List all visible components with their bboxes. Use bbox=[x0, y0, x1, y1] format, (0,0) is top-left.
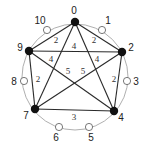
edge-weight-label: 2 bbox=[112, 74, 117, 84]
node-label-7: 7 bbox=[23, 110, 29, 121]
graph-canvas: 2244455223 012345678910 bbox=[0, 0, 149, 149]
edge-weight-label: 5 bbox=[81, 66, 86, 76]
open-node-3 bbox=[123, 77, 130, 84]
filled-node-4 bbox=[110, 107, 118, 115]
node-label-6: 6 bbox=[53, 132, 59, 143]
node-label-9: 9 bbox=[17, 42, 23, 53]
open-node-8 bbox=[20, 77, 27, 84]
edge-weight-label: 5 bbox=[66, 66, 71, 76]
edge-weight-label: 4 bbox=[72, 41, 77, 51]
edge-9-2 bbox=[29, 51, 122, 52]
node-label-10: 10 bbox=[34, 15, 46, 26]
open-node-6 bbox=[55, 123, 62, 130]
graph-diagram: 2244455223 012345678910 bbox=[0, 0, 149, 149]
edge-weight-label: 4 bbox=[49, 54, 54, 64]
edge-7-4 bbox=[35, 109, 114, 111]
node-label-5: 5 bbox=[88, 132, 94, 143]
filled-node-0 bbox=[71, 18, 79, 26]
edge-weight-label: 2 bbox=[36, 74, 41, 84]
node-label-1: 1 bbox=[105, 15, 111, 26]
filled-node-9 bbox=[25, 47, 33, 55]
edge-weight-label: 2 bbox=[92, 35, 97, 45]
node-label-8: 8 bbox=[11, 76, 17, 87]
node-label-4: 4 bbox=[118, 112, 124, 123]
node-label-2: 2 bbox=[128, 42, 134, 53]
filled-node-7 bbox=[31, 105, 39, 113]
open-node-1 bbox=[98, 26, 105, 33]
node-label-0: 0 bbox=[71, 5, 77, 16]
open-node-5 bbox=[85, 123, 92, 130]
open-node-10 bbox=[43, 26, 50, 33]
edge-weight-label: 4 bbox=[95, 54, 100, 64]
edge-9-7 bbox=[29, 51, 35, 109]
filled-node-2 bbox=[118, 48, 126, 56]
edge-weight-label: 2 bbox=[54, 35, 59, 45]
edge-weight-label: 3 bbox=[72, 112, 77, 122]
node-label-3: 3 bbox=[133, 76, 139, 87]
